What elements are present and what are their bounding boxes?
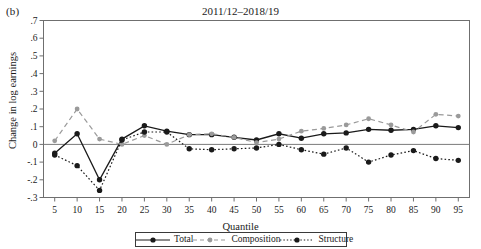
data-point-composition — [456, 114, 461, 119]
data-point-composition — [97, 137, 102, 142]
data-point-structure — [276, 142, 281, 147]
x-tick-label: 85 — [409, 205, 419, 215]
y-tick-label: .6 — [30, 33, 37, 43]
data-point-composition — [164, 142, 169, 147]
data-point-total — [456, 125, 461, 130]
structure-line-swatch-icon — [280, 235, 314, 245]
data-point-total — [366, 127, 371, 132]
data-point-composition — [52, 138, 57, 143]
x-tick-label: 70 — [341, 205, 351, 215]
total-line-swatch-icon — [136, 235, 170, 245]
data-point-structure — [74, 163, 79, 168]
plot-area: -.3-.2-.10.1.2.3.4.5.6.75101520253035404… — [0, 0, 481, 249]
x-tick-label: 50 — [252, 205, 262, 215]
data-point-structure — [366, 159, 371, 164]
data-point-total — [142, 123, 147, 128]
x-tick-label: 95 — [454, 205, 464, 215]
x-tick-label: 90 — [431, 205, 441, 215]
legend-label-composition: Composition — [230, 235, 280, 245]
y-tick-label: .1 — [30, 122, 37, 132]
x-tick-label: 30 — [162, 205, 172, 215]
data-point-composition — [187, 132, 192, 137]
x-tick-label: 35 — [184, 205, 194, 215]
data-point-composition — [389, 123, 394, 128]
data-point-composition — [75, 107, 80, 112]
data-point-structure — [411, 148, 416, 153]
data-point-total — [299, 136, 304, 141]
data-point-structure — [119, 137, 124, 142]
data-point-composition — [411, 130, 416, 135]
x-tick-label: 25 — [140, 205, 150, 215]
data-point-composition — [277, 137, 282, 142]
legend-item-composition: Composition — [193, 235, 280, 245]
y-tick-label: .7 — [30, 16, 37, 26]
legend-label-structure: Structure — [317, 235, 353, 245]
data-point-total — [388, 128, 393, 133]
data-point-total — [74, 131, 79, 136]
data-point-total — [321, 131, 326, 136]
y-tick-label: .2 — [30, 104, 37, 114]
y-tick-label: .3 — [30, 87, 37, 97]
data-point-composition — [366, 116, 371, 121]
legend-label-total: Total — [173, 235, 193, 245]
legend: Total Composition Structure — [135, 232, 347, 247]
x-tick-label: 5 — [52, 205, 57, 215]
data-point-structure — [164, 129, 169, 134]
data-point-structure — [97, 188, 102, 193]
data-point-composition — [254, 140, 259, 145]
x-tick-label: 15 — [95, 205, 105, 215]
x-tick-label: 65 — [319, 205, 329, 215]
y-tick-label: -.3 — [27, 193, 38, 203]
legend-item-total: Total — [136, 235, 193, 245]
y-tick-label: .5 — [30, 51, 37, 61]
data-point-structure — [299, 147, 304, 152]
data-point-composition — [209, 131, 214, 136]
x-tick-label: 80 — [386, 205, 396, 215]
figure-panel: (b) 2011/12–2018/19 Change in log earnin… — [0, 0, 481, 249]
data-point-composition — [232, 135, 237, 140]
data-point-structure — [231, 146, 236, 151]
chart-svg: -.3-.2-.10.1.2.3.4.5.6.75101520253035404… — [0, 0, 481, 249]
x-tick-label: 20 — [117, 205, 127, 215]
x-tick-label: 55 — [274, 205, 284, 215]
data-point-composition — [344, 123, 349, 128]
x-tick-label: 45 — [229, 205, 239, 215]
data-point-structure — [456, 158, 461, 163]
data-point-structure — [321, 151, 326, 156]
data-point-structure — [209, 147, 214, 152]
data-point-total — [276, 131, 281, 136]
x-tick-label: 60 — [297, 205, 307, 215]
data-point-structure — [254, 145, 259, 150]
data-point-structure — [433, 156, 438, 161]
data-point-total — [97, 177, 102, 182]
y-tick-label: 0 — [33, 140, 38, 150]
data-point-total — [433, 123, 438, 128]
data-point-composition — [321, 126, 326, 131]
legend-item-structure: Structure — [280, 235, 353, 245]
data-point-composition — [433, 112, 438, 117]
y-tick-label: -.2 — [27, 175, 38, 185]
plot-frame — [44, 21, 470, 198]
y-tick-label: .4 — [30, 69, 37, 79]
data-point-structure — [343, 145, 348, 150]
data-point-composition — [299, 129, 304, 134]
x-tick-label: 40 — [207, 205, 217, 215]
data-point-structure — [142, 129, 147, 134]
series-line-total — [55, 126, 459, 180]
data-point-structure — [388, 152, 393, 157]
x-tick-label: 10 — [72, 205, 82, 215]
data-point-total — [343, 130, 348, 135]
data-point-structure — [52, 152, 57, 157]
data-point-structure — [187, 146, 192, 151]
y-tick-label: -.1 — [27, 157, 38, 167]
x-tick-label: 75 — [364, 205, 374, 215]
composition-line-swatch-icon — [193, 235, 227, 245]
